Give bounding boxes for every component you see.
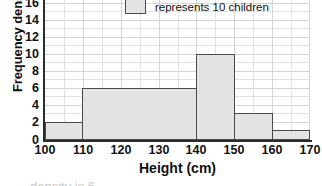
plot-area: represents 10 children bbox=[45, 0, 310, 140]
x-axis-line bbox=[43, 140, 312, 142]
x-tick-label: 160 bbox=[262, 144, 283, 157]
histogram-bar bbox=[272, 130, 310, 140]
x-tick-label: 110 bbox=[73, 144, 93, 157]
x-tick-label: 140 bbox=[186, 144, 207, 157]
y-axis-title: Frequency density bbox=[10, 0, 25, 101]
x-tick-label: 150 bbox=[224, 144, 245, 157]
y-tick-label: 2 bbox=[32, 116, 39, 129]
y-tick-label: 8 bbox=[32, 65, 39, 78]
x-tick-label: 130 bbox=[149, 144, 170, 157]
y-tick-label: 6 bbox=[32, 82, 39, 95]
histogram-bar bbox=[45, 122, 83, 140]
gridline-x-105 bbox=[64, 0, 65, 140]
legend: represents 10 children bbox=[125, 0, 269, 14]
y-tick-label: 4 bbox=[32, 99, 39, 112]
y-tick-label: 16 bbox=[25, 0, 39, 9]
cropped-text-sliver: density is 6 bbox=[30, 179, 95, 186]
x-axis-title: Height (cm) bbox=[45, 160, 310, 176]
y-axis-line bbox=[43, 0, 45, 141]
x-tick-label: 100 bbox=[35, 144, 56, 157]
histogram-bar bbox=[234, 113, 273, 140]
histogram-figure: represents 10 children 16 14 12 10 8 6 4… bbox=[0, 0, 322, 186]
legend-swatch bbox=[125, 0, 146, 14]
gridline-x-165 bbox=[291, 0, 292, 140]
gridline-x-170 bbox=[309, 0, 310, 140]
x-tick-label: 170 bbox=[300, 144, 321, 157]
y-tick-label: 12 bbox=[25, 31, 39, 44]
histogram-bar bbox=[196, 54, 235, 140]
x-tick-label: 120 bbox=[111, 144, 132, 157]
y-tick-label: 10 bbox=[25, 48, 39, 61]
histogram-bar bbox=[82, 88, 197, 140]
legend-label: represents 10 children bbox=[155, 1, 269, 13]
y-tick-label: 14 bbox=[25, 14, 39, 27]
